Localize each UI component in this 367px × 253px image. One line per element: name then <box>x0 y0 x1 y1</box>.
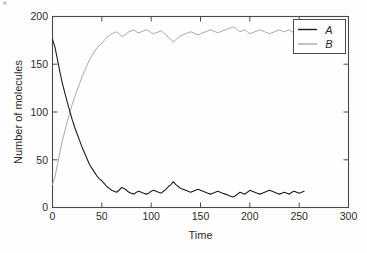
y-tick-label: 0 <box>42 201 48 213</box>
y-tick-label: 50 <box>36 154 48 166</box>
legend-label-A: A <box>324 24 332 36</box>
series-group <box>53 27 305 197</box>
chart-plot: 0 50 100 150 200 250 300 0 50 100 150 20… <box>0 0 367 253</box>
series-line-A <box>53 39 305 197</box>
x-tick-label: 200 <box>241 210 259 222</box>
legend-box <box>294 20 346 54</box>
x-tick-labels: 0 50 100 150 200 250 300 <box>50 210 358 222</box>
x-tick-label: 0 <box>50 210 56 222</box>
y-tick-labels: 0 50 100 150 200 <box>30 10 48 213</box>
series-line-B <box>53 27 305 185</box>
legend-label-B: B <box>325 38 332 50</box>
y-tick-label: 200 <box>30 10 48 22</box>
y-tick-label: 150 <box>30 58 48 70</box>
x-axis-label: Time <box>188 229 212 241</box>
x-tick-label: 300 <box>340 210 358 222</box>
x-tick-label: 250 <box>290 210 308 222</box>
y-tick-label: 100 <box>30 106 48 118</box>
legend[interactable]: A B <box>294 20 346 54</box>
x-tick-label: 100 <box>142 210 160 222</box>
x-tick-label: 150 <box>192 210 210 222</box>
y-axis-label: Number of molecules <box>12 60 24 164</box>
x-tick-label: 50 <box>96 210 108 222</box>
figure-canvas: 0 50 100 150 200 250 300 0 50 100 150 20… <box>0 0 367 253</box>
